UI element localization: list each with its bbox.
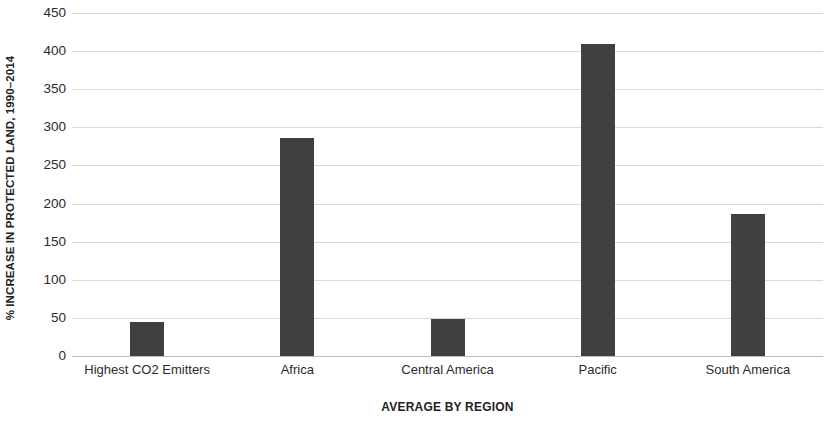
bar: [130, 322, 164, 356]
bar-chart: % INCREASE IN PROTECTED LAND, 1990–2014 …: [0, 0, 829, 427]
bar: [431, 319, 465, 356]
x-axis-tick-label: Africa: [281, 362, 314, 379]
x-axis-tick-label: Pacific: [579, 362, 617, 379]
y-axis-title: % INCREASE IN PROTECTED LAND, 1990–2014: [0, 0, 20, 375]
bar: [280, 138, 314, 356]
y-axis-tick-label: 350: [22, 82, 66, 96]
y-axis-tick-labels: 050100150200250300350400450: [22, 0, 66, 375]
bar: [731, 214, 765, 356]
x-axis-tick-labels: Highest CO2 EmittersAfricaCentral Americ…: [72, 362, 823, 384]
x-axis-title: AVERAGE BY REGION: [72, 400, 823, 414]
plot-area: [72, 13, 823, 356]
y-axis-tick-label: 300: [22, 121, 66, 135]
y-axis-tick-label: 450: [22, 6, 66, 20]
y-axis-tick-label: 100: [22, 273, 66, 287]
x-axis-tick-label: Central America: [401, 362, 493, 379]
bars-group: [72, 13, 823, 356]
y-axis-tick-label: 400: [22, 44, 66, 58]
y-axis-tick-label: 250: [22, 159, 66, 173]
y-axis-tick-label: 200: [22, 197, 66, 211]
x-axis-tick-label: Highest CO2 Emitters: [84, 362, 210, 379]
y-axis-tick-label: 50: [22, 311, 66, 325]
y-axis-tick-label: 0: [22, 349, 66, 363]
x-axis-tick-label: South America: [706, 362, 791, 379]
axis-baseline: [72, 356, 823, 357]
y-axis-tick-label: 150: [22, 235, 66, 249]
bar: [581, 44, 615, 357]
y-axis-title-text: % INCREASE IN PROTECTED LAND, 1990–2014: [4, 55, 16, 320]
